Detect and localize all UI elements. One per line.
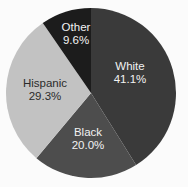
pie-slice-value-black: 20.0% xyxy=(72,139,105,151)
pie-chart: White41.1%Black20.0%Hispanic29.3%Other9.… xyxy=(0,0,188,187)
pie-slice-value-white: 41.1% xyxy=(114,73,147,85)
pie-slice-label-black: Black xyxy=(74,126,102,138)
pie-slice-label-hispanic: Hispanic xyxy=(23,77,67,89)
pie-slice-label-white: White xyxy=(115,60,144,72)
pie-slice-label-other: Other xyxy=(62,21,91,33)
pie-chart-canvas: White41.1%Black20.0%Hispanic29.3%Other9.… xyxy=(0,0,188,187)
pie-slice-value-hispanic: 29.3% xyxy=(29,90,62,102)
pie-slice-value-other: 9.6% xyxy=(63,34,89,46)
